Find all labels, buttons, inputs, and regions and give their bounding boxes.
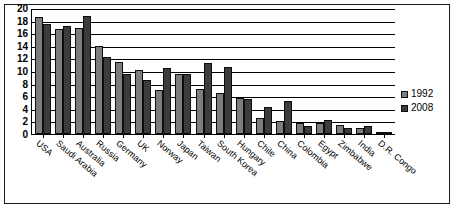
bar <box>55 29 63 134</box>
y-tick-label: 4 <box>22 105 28 115</box>
bar <box>155 90 163 134</box>
bar <box>75 28 83 134</box>
legend-swatch-icon <box>401 91 408 98</box>
x-label-slot: Russia <box>92 137 112 199</box>
bar <box>83 16 91 134</box>
x-label-slot: Zimbabwe <box>334 137 354 199</box>
x-label-slot: Australia <box>72 137 92 199</box>
x-label-slot: Colombia <box>293 137 313 199</box>
y-tick-label: 2 <box>22 117 28 127</box>
bar <box>103 57 111 134</box>
bar <box>196 89 204 134</box>
x-axis-tick-labels: USASaudi ArabiaAustraliaRussiaGermanyUKN… <box>31 137 395 199</box>
bar-group <box>294 9 314 134</box>
bar <box>95 46 103 134</box>
bar <box>123 74 131 134</box>
bar <box>376 132 384 134</box>
bar-group <box>354 9 374 134</box>
bar <box>143 80 151 134</box>
bar <box>224 67 232 134</box>
y-tick-label: 16 <box>17 29 28 39</box>
y-tick-label: 12 <box>17 54 28 64</box>
y-tick-label: 14 <box>17 42 28 52</box>
x-label-slot: Hungary <box>233 137 253 199</box>
x-axis-label: UK <box>135 139 150 154</box>
legend-label: 2008 <box>411 103 433 113</box>
legend-item[interactable]: 1992 <box>401 89 445 99</box>
bar <box>115 62 123 134</box>
y-tick-label: 18 <box>17 17 28 27</box>
x-label-slot: Saudi Arabia <box>52 137 72 199</box>
x-label-slot: Egypt <box>314 137 334 199</box>
x-label-slot: Taiwan <box>193 137 213 199</box>
bar <box>364 126 372 134</box>
bar <box>204 63 212 134</box>
x-label-slot: Norway <box>153 137 173 199</box>
plot-wrapper: 02468101214161820 <box>10 9 395 145</box>
bar <box>236 98 244 134</box>
bar-group <box>254 9 274 134</box>
y-tick-label: 20 <box>17 4 28 14</box>
bar <box>316 123 324 134</box>
bar-group <box>53 9 73 134</box>
x-label-slot: India <box>354 137 374 199</box>
bar <box>244 99 252 134</box>
y-tick-label: 10 <box>17 67 28 77</box>
y-tick-label: 0 <box>22 130 28 140</box>
bar-group <box>194 9 214 134</box>
y-tick-label: 8 <box>22 80 28 90</box>
bar-group <box>33 9 53 134</box>
bar-group <box>274 9 294 134</box>
bar <box>384 132 392 134</box>
bar <box>256 118 264 134</box>
bar-group <box>234 9 254 134</box>
x-label-slot: South Korea <box>213 137 233 199</box>
x-axis-label: D.R. Congo <box>376 139 418 176</box>
y-axis-tick-labels: 02468101214161820 <box>10 9 29 135</box>
legend-swatch-icon <box>401 105 408 112</box>
x-label-slot: Germany <box>112 137 132 199</box>
legend-item[interactable]: 2008 <box>401 103 445 113</box>
bar-group <box>314 9 334 134</box>
bar-group <box>73 9 93 134</box>
bar-group <box>93 9 113 134</box>
chart-area: 02468101214161820 USASaudi ArabiaAustral… <box>10 9 444 199</box>
bar <box>276 121 284 134</box>
bar <box>324 120 332 134</box>
x-label-slot: UK <box>133 137 153 199</box>
bar <box>344 128 352 134</box>
bar-group <box>374 9 394 134</box>
bar <box>336 125 344 134</box>
bar <box>63 26 71 134</box>
legend-label: 1992 <box>411 89 433 99</box>
chart-figure: 02468101214161820 USASaudi ArabiaAustral… <box>0 0 455 215</box>
bar-group <box>113 9 133 134</box>
y-tick-label: 6 <box>22 92 28 102</box>
bar <box>216 93 224 134</box>
bar <box>35 17 43 134</box>
bar <box>163 68 171 134</box>
x-label-slot: Japan <box>173 137 193 199</box>
bar <box>284 101 292 134</box>
bar <box>135 70 143 134</box>
x-label-slot: D.R. Congo <box>374 137 394 199</box>
bar <box>356 128 364 134</box>
bar <box>175 74 183 134</box>
plot-region <box>31 9 395 135</box>
bar <box>304 126 312 134</box>
bar-group <box>214 9 234 134</box>
bar <box>183 74 191 134</box>
bar <box>264 107 272 134</box>
bar-group <box>153 9 173 134</box>
x-label-slot: Chile <box>253 137 273 199</box>
bar-group <box>334 9 354 134</box>
x-label-slot: China <box>273 137 293 199</box>
x-label-slot: USA <box>32 137 52 199</box>
bar-group <box>133 9 153 134</box>
bar <box>296 123 304 134</box>
bar-group <box>173 9 193 134</box>
bar <box>43 24 51 134</box>
chart-legend: 19922008 <box>401 89 445 117</box>
bar-groups <box>32 9 395 134</box>
